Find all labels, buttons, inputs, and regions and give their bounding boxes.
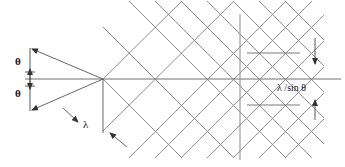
wavelength-label: λ — [83, 119, 88, 130]
spacing-label: λ /sin θ — [277, 83, 306, 93]
diffraction-figure: θ θ λ λ /sin θ — [0, 0, 345, 167]
lambda-dimension — [63, 79, 127, 147]
theta-upper-label: θ — [15, 56, 21, 67]
theta-lower-label: θ — [15, 88, 21, 99]
